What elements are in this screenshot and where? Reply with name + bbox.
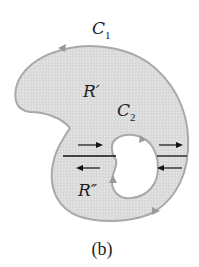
label-r-double-prime: R″ (77, 180, 98, 200)
label-r-prime: R′ (82, 81, 100, 101)
figure-caption: (b) (92, 239, 113, 260)
label-c1: C1 (92, 18, 111, 41)
region-r-shape (15, 46, 188, 221)
region-diagram: C1 R′ C2 R″ (b) (0, 0, 199, 267)
